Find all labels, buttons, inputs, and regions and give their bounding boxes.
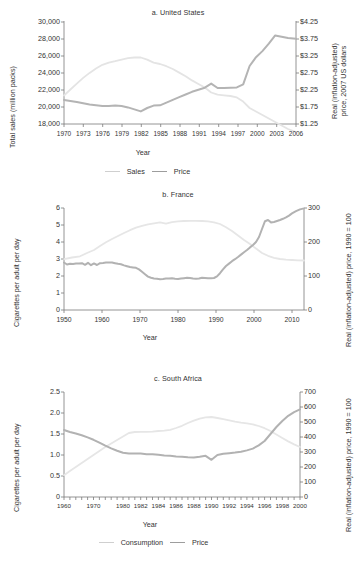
panel-c-x-label: Year <box>0 520 328 529</box>
svg-text:6: 6 <box>56 203 60 212</box>
svg-text:400: 400 <box>304 432 316 441</box>
svg-text:$1.75: $1.75 <box>300 102 318 111</box>
panel-c-xtick: 2000 <box>293 502 307 509</box>
panel-c-xtick: 1970 <box>87 502 101 509</box>
svg-text:200: 200 <box>308 237 320 246</box>
legend-label-sales: Sales <box>126 167 146 176</box>
svg-text:26,000: 26,000 <box>38 51 60 60</box>
legend-swatch-price <box>170 542 185 543</box>
panel-b-right-axis <box>304 208 307 310</box>
panel-c-xtick: 1960 <box>57 502 71 509</box>
figure-container: a. United States Total sales (million pa… <box>0 0 356 563</box>
svg-text:200: 200 <box>304 462 316 471</box>
panel-a-xtick: 1973 <box>76 130 90 137</box>
svg-text:1.5: 1.5 <box>50 429 60 438</box>
svg-text:3: 3 <box>56 254 60 263</box>
panel-b-x-label: Year <box>0 333 328 342</box>
svg-text:2: 2 <box>56 271 60 280</box>
chart-panel-france: b. France Cigarettes per adult per day R… <box>0 185 356 372</box>
panel-c-xtick: 1986 <box>169 502 183 509</box>
panel-b-xtick: 1990 <box>208 316 223 323</box>
svg-text:0.5: 0.5 <box>50 471 60 480</box>
panel-c-left-axis <box>61 392 64 497</box>
svg-text:$1.25: $1.25 <box>300 119 318 128</box>
legend-label-consumption: Consumption <box>120 538 164 547</box>
svg-text:500: 500 <box>304 417 316 426</box>
svg-text:28,000: 28,000 <box>38 34 60 43</box>
panel-a-xtick-labels: 1970 1973 1976 1979 1982 1985 1988 1991 … <box>0 130 356 140</box>
panel-b-xtick: 1950 <box>56 316 71 323</box>
panel-a-ytick-labels-left: 18,000 20,000 22,000 24,000 26,000 28,00… <box>38 17 60 128</box>
legend-swatch-price <box>152 171 167 172</box>
panel-c-xtick: 1990 <box>205 502 219 509</box>
svg-text:18,000: 18,000 <box>38 119 60 128</box>
svg-text:20,000: 20,000 <box>38 102 60 111</box>
panel-b-xtick: 1970 <box>132 316 147 323</box>
panel-a-left-axis <box>61 21 64 124</box>
svg-text:22,000: 22,000 <box>38 85 60 94</box>
panel-a-right-axis <box>296 21 299 124</box>
svg-text:700: 700 <box>304 387 316 396</box>
panel-b-xtick: 1960 <box>94 316 109 323</box>
panel-b-ytick-labels-right: 0 100 200 300 <box>308 203 320 314</box>
panel-c-x-axis <box>64 497 300 500</box>
svg-text:$4.25: $4.25 <box>300 17 318 26</box>
panel-b-x-axis <box>64 310 304 313</box>
panel-c-xtick: 1980 <box>116 502 130 509</box>
panel-a-xtick: 1988 <box>173 130 187 137</box>
svg-text:2.5: 2.5 <box>50 387 60 396</box>
panel-c-xtick: 1998 <box>275 502 289 509</box>
panel-a-xtick: 2006 <box>289 130 303 137</box>
svg-text:300: 300 <box>308 203 320 212</box>
svg-text:0: 0 <box>308 305 312 314</box>
panel-c-xtick-labels: 1960 1970 1980 1982 1984 1986 1988 1990 … <box>0 502 356 512</box>
panel-a-xtick: 1979 <box>115 130 129 137</box>
panel-a-xtick: 2003 <box>269 130 283 137</box>
panel-a-xtick: 1997 <box>231 130 245 137</box>
panel-c-xtick: 1996 <box>258 502 272 509</box>
panel-a-xtick: 2000 <box>250 130 264 137</box>
svg-text:5: 5 <box>56 220 60 229</box>
panel-b-xtick: 1980 <box>170 316 185 323</box>
panel-b-xtick: 2000 <box>246 316 261 323</box>
svg-text:600: 600 <box>304 402 316 411</box>
svg-text:4: 4 <box>56 237 60 246</box>
panel-b-xtick-labels: 1950 1960 1970 1980 1990 2000 2010 <box>0 316 356 326</box>
panel-c-xtick: 1982 <box>134 502 148 509</box>
panel-a-xtick: 1985 <box>153 130 167 137</box>
svg-text:100: 100 <box>304 477 316 486</box>
panel-c-ytick-labels-right: 0 100 200 300 400 500 600 700 <box>304 387 316 501</box>
svg-text:100: 100 <box>308 271 320 280</box>
panel-c-ytick-labels-left: 0 0.5 1.0 1.5 2.0 2.5 <box>50 387 60 501</box>
panel-b-xtick: 2010 <box>284 316 299 323</box>
svg-text:$2.25: $2.25 <box>300 85 318 94</box>
panel-a-xtick: 1994 <box>211 130 225 137</box>
panel-c-series-consumption <box>64 417 300 475</box>
svg-text:$2.75: $2.75 <box>300 68 318 77</box>
panel-c-xtick: 1994 <box>240 502 254 509</box>
panel-a-plot-area: 18,000 20,000 22,000 24,000 26,000 28,00… <box>0 14 356 146</box>
panel-a-xtick: 1991 <box>192 130 206 137</box>
svg-text:1: 1 <box>56 288 60 297</box>
panel-c-plot-area: 0 0.5 1.0 1.5 2.0 2.5 0 100 200 300 400 … <box>0 382 356 517</box>
legend-label-price: Price <box>191 538 209 547</box>
svg-text:24,000: 24,000 <box>38 68 60 77</box>
panel-a-legend: Sales Price <box>0 167 326 176</box>
svg-text:$3.75: $3.75 <box>300 34 318 43</box>
panel-b-plot-area: 0 1 2 3 4 5 6 0 100 200 300 <box>0 197 356 329</box>
svg-text:$3.25: $3.25 <box>300 51 318 60</box>
panel-a-xtick: 1982 <box>134 130 148 137</box>
panel-c-xtick: 1988 <box>187 502 201 509</box>
legend-label-price: Price <box>173 167 191 176</box>
panel-c-xtick: 1992 <box>222 502 236 509</box>
panel-b-ytick-labels-left: 0 1 2 3 4 5 6 <box>56 203 60 314</box>
panel-a-x-axis <box>64 124 296 127</box>
legend-swatch-sales <box>105 171 120 172</box>
panel-a-xtick: 1976 <box>95 130 109 137</box>
svg-text:30,000: 30,000 <box>38 17 60 26</box>
svg-text:1.0: 1.0 <box>50 450 60 459</box>
legend-swatch-consumption <box>99 542 114 543</box>
panel-b-series-consumption <box>64 221 304 261</box>
panel-a-series-sales <box>64 58 296 133</box>
panel-a-xtick: 1970 <box>57 130 71 137</box>
